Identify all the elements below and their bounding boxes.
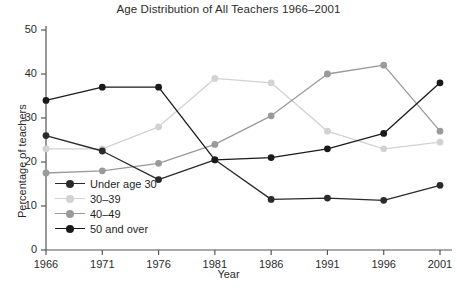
legend-dot-icon — [66, 225, 74, 233]
data-point — [324, 128, 331, 135]
legend-swatch-icon — [55, 178, 85, 189]
legend-label: Under age 30 — [90, 178, 157, 190]
legend-label: 40–49 — [90, 208, 121, 220]
data-point — [437, 182, 444, 189]
data-point — [437, 79, 444, 86]
data-point — [437, 139, 444, 146]
legend-swatch-icon — [55, 223, 85, 234]
data-point — [324, 145, 331, 152]
data-point — [99, 167, 106, 174]
x-tick-label: 1971 — [80, 259, 124, 270]
chart-title: Age Distribution of All Teachers 1966–20… — [0, 3, 457, 15]
data-point — [211, 75, 218, 82]
chart-legend: Under age 3030–3940–4950 and over — [55, 176, 157, 236]
y-tick-label: 20 — [11, 156, 37, 167]
data-point — [324, 71, 331, 78]
data-point — [99, 148, 106, 155]
legend-label: 30–39 — [90, 193, 121, 205]
data-point — [380, 62, 387, 69]
data-point — [380, 145, 387, 152]
legend-item-3[interactable]: 50 and over — [55, 221, 157, 236]
chart-container: Age Distribution of All Teachers 1966–20… — [0, 0, 457, 289]
data-point — [43, 132, 50, 139]
legend-swatch-icon — [55, 208, 85, 219]
data-point — [268, 154, 275, 161]
plot-area — [0, 0, 457, 289]
data-point — [155, 160, 162, 167]
data-point — [155, 84, 162, 91]
x-tick-label: 1986 — [249, 259, 293, 270]
legend-item-0[interactable]: Under age 30 — [55, 176, 157, 191]
series-line — [46, 65, 440, 173]
data-point — [211, 141, 218, 148]
data-point — [437, 128, 444, 135]
data-point — [99, 84, 106, 91]
y-tick-label: 50 — [11, 24, 37, 35]
x-tick-label: 1981 — [193, 259, 237, 270]
data-point — [380, 130, 387, 137]
y-tick-label: 40 — [11, 68, 37, 79]
data-point — [155, 123, 162, 130]
legend-swatch-icon — [55, 193, 85, 204]
data-point — [268, 196, 275, 203]
legend-item-2[interactable]: 40–49 — [55, 206, 157, 221]
data-point — [324, 195, 331, 202]
legend-label: 50 and over — [90, 223, 148, 235]
x-tick-label: 1996 — [362, 259, 406, 270]
legend-dot-icon — [66, 180, 74, 188]
legend-dot-icon — [66, 210, 74, 218]
legend-item-1[interactable]: 30–39 — [55, 191, 157, 206]
data-point — [43, 170, 50, 177]
y-tick-label: 30 — [11, 112, 37, 123]
x-tick-label: 2001 — [418, 259, 457, 270]
y-tick-label: 0 — [11, 244, 37, 255]
data-point — [211, 156, 218, 163]
data-point — [380, 197, 387, 204]
x-tick-label: 1966 — [24, 259, 68, 270]
y-tick-label: 10 — [11, 200, 37, 211]
x-tick-label: 1976 — [137, 259, 181, 270]
data-point — [268, 112, 275, 119]
data-point — [43, 145, 50, 152]
x-tick-label: 1991 — [305, 259, 349, 270]
data-point — [268, 79, 275, 86]
legend-dot-icon — [66, 195, 74, 203]
data-point — [43, 97, 50, 104]
